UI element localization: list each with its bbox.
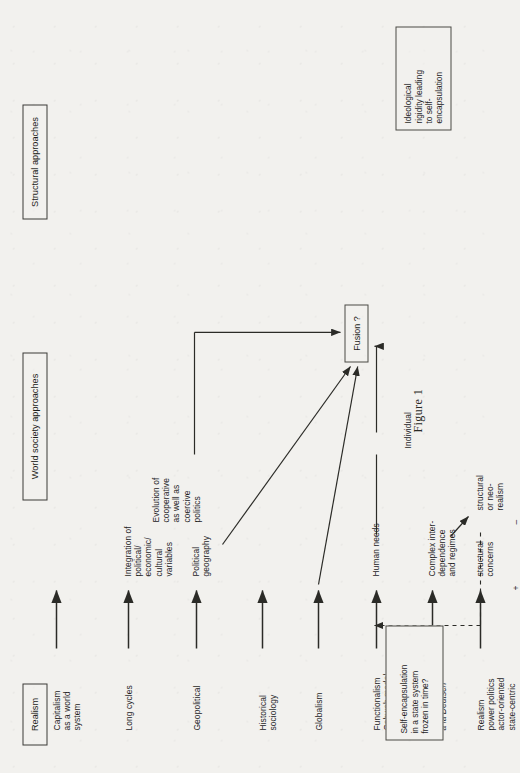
group-box-structural: Structural approaches <box>22 104 47 219</box>
group-box-world-society: World society approaches <box>22 352 47 500</box>
column-label-realism: Realismpower politicsactor-orientedstate… <box>475 620 516 730</box>
column-label-capitalism: Capitalismas a worldsystem <box>51 620 82 730</box>
outcome-box-self-encapsulation: Self-encapsulation in a state system fro… <box>385 625 443 740</box>
fusion-box: Fusion ? <box>344 304 368 362</box>
node-evolution: Evolution ofcooperativeas well ascoerciv… <box>150 442 201 522</box>
outcome-box-ideological-rigidity: Ideological rigidity leading to self- en… <box>395 26 451 130</box>
column-label-historical: Historicalsociology <box>257 620 277 730</box>
column-label-longcycles: Long cycles <box>123 620 133 730</box>
arrow-globalism-to-fusion <box>318 366 357 584</box>
column-label-globalism: Globalism <box>313 620 323 730</box>
node-complex-interdependence: Complex inter-dependenceand regimes <box>426 496 457 576</box>
sign-minus: – <box>510 512 520 524</box>
sign-plus: + <box>510 578 520 590</box>
figure-caption: Figure 1 <box>410 388 425 432</box>
node-structural-neorealism: structuralor neo-realism <box>474 430 505 510</box>
group-box-realism: Realism <box>22 683 47 745</box>
column-label-geopolitical: Geopolitical <box>191 620 201 730</box>
node-human-needs: Human needs <box>370 496 380 576</box>
